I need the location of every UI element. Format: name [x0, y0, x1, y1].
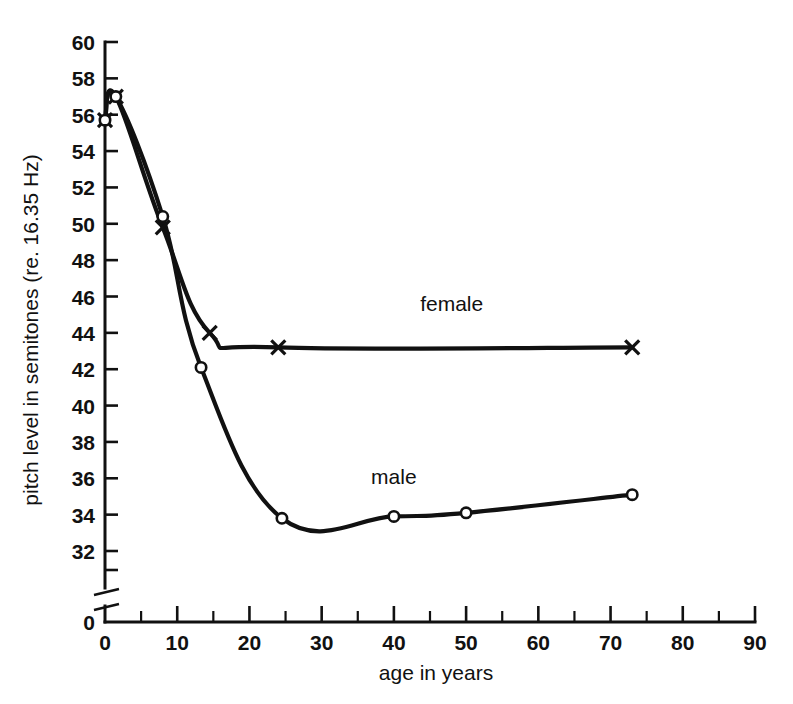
axes	[94, 42, 755, 622]
x-tick-label: 70	[599, 631, 622, 654]
y-tick-label: 42	[72, 358, 95, 381]
series-annotations: femalemale	[371, 292, 483, 488]
y-tick-label: 32	[72, 540, 95, 563]
y-tick-label: 40	[72, 395, 95, 418]
y-axis-label: pitch level in semitones (re. 16.35 Hz)	[19, 154, 42, 505]
marker-circle-male	[196, 362, 206, 372]
x-tick-label: 50	[454, 631, 477, 654]
axis-break-mark	[94, 589, 119, 595]
y-tick-label: 58	[72, 67, 96, 90]
data-markers	[98, 90, 639, 524]
y-tick-label: 46	[72, 286, 95, 309]
x-tick-label: 10	[166, 631, 189, 654]
series-label-male: male	[371, 465, 417, 488]
series-line-male	[105, 91, 632, 531]
marker-x-female	[203, 326, 217, 340]
x-tick-label: 40	[382, 631, 405, 654]
x-tick-label: 20	[238, 631, 261, 654]
chart-figure: 3234363840424446485052545658600010203040…	[0, 0, 793, 704]
y-tick-label: 44	[72, 322, 96, 345]
x-tick-label: 0	[99, 631, 111, 654]
y-tick-label: 52	[72, 176, 95, 199]
y-tick-label: 34	[72, 504, 96, 527]
x-axis-label: age in years	[379, 661, 493, 684]
x-tick-label: 80	[671, 631, 694, 654]
marker-circle-male	[277, 513, 287, 523]
pitch-vs-age-line-chart: 3234363840424446485052545658600010203040…	[0, 0, 793, 704]
y-tick-label: 60	[72, 31, 95, 54]
y-tick-label: 48	[72, 249, 96, 272]
y-tick-label: 56	[72, 104, 95, 127]
y-tick-label: 36	[72, 467, 95, 490]
y-axis-zero-label: 0	[83, 611, 95, 634]
x-tick-label: 60	[527, 631, 550, 654]
marker-circle-male	[627, 489, 637, 499]
x-tick-label: 30	[310, 631, 333, 654]
y-tick-label: 38	[72, 431, 96, 454]
data-series	[105, 90, 632, 531]
marker-circle-male	[461, 508, 471, 518]
axis-ticks	[105, 42, 755, 622]
axis-tick-labels: 3234363840424446485052545658600010203040…	[72, 31, 767, 654]
marker-circle-male	[389, 511, 399, 521]
y-tick-label: 50	[72, 213, 95, 236]
marker-circle-male	[100, 115, 110, 125]
x-tick-label: 90	[743, 631, 766, 654]
marker-circle-male	[111, 91, 121, 101]
marker-circle-male	[158, 211, 168, 221]
series-label-female: female	[420, 292, 483, 315]
y-tick-label: 54	[72, 140, 96, 163]
